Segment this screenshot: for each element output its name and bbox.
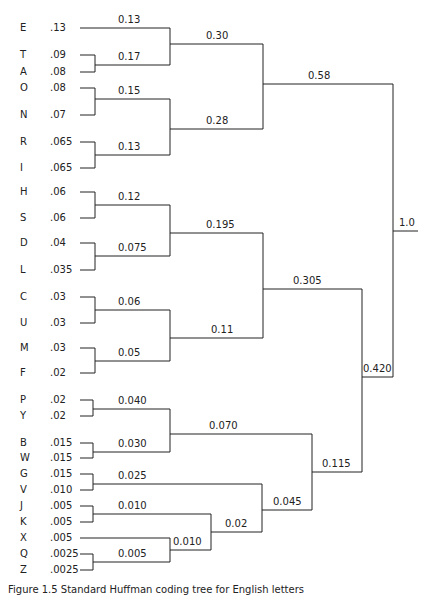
branch-top	[263, 44, 393, 129]
node-value: 0.010	[118, 500, 147, 512]
node-value: 0.13	[118, 14, 140, 26]
node-value: 0.12	[118, 191, 140, 203]
node-value: 0.115	[322, 458, 351, 470]
branch-low	[312, 434, 362, 510]
node-value: 0.075	[118, 242, 147, 254]
branch-bottom	[362, 289, 393, 472]
node-value: 0.070	[209, 420, 238, 432]
node-value: 0.13	[118, 141, 140, 153]
node-value: 0.040	[118, 395, 147, 407]
node-value: 0.305	[293, 275, 322, 287]
root-value: 1.0	[399, 217, 415, 229]
node-value: 0.02	[225, 518, 247, 530]
node-value: 0.15	[118, 85, 140, 97]
branch-PYBW	[170, 409, 312, 452]
node-value: 0.025	[118, 470, 147, 482]
figure-caption: Figure 1.5 Standard Huffman coding tree …	[8, 584, 304, 596]
node-value: 0.195	[206, 219, 235, 231]
branch-GVJK	[262, 484, 312, 532]
node-value: 0.045	[273, 496, 302, 508]
branch-root	[393, 84, 418, 377]
node-value: 0.11	[211, 324, 233, 336]
node-value: 0.28	[206, 115, 228, 127]
branch-ONRI	[170, 99, 263, 155]
node-value: 0.17	[118, 51, 140, 63]
node-value: 0.420	[363, 363, 392, 375]
node-value: 0.58	[308, 70, 330, 82]
node-value: 0.30	[206, 30, 228, 42]
node-value: 0.030	[118, 438, 147, 450]
branch-GV	[80, 474, 262, 490]
node-value: 0.05	[118, 347, 140, 359]
node-value: 0.005	[118, 548, 147, 560]
node-value: 0.06	[118, 296, 140, 308]
node-value: 0.010	[173, 536, 202, 548]
